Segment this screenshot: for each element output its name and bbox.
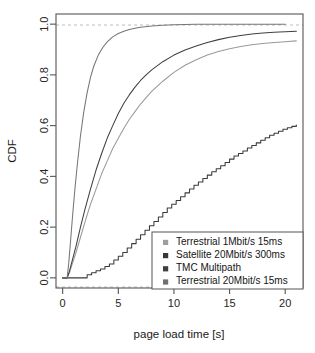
x-tick-label: 15 bbox=[223, 297, 235, 309]
x-tick-label: 5 bbox=[115, 297, 121, 309]
plot-canvas: 0.00.20.40.60.81.0 05101520 page load ti… bbox=[0, 0, 315, 353]
y-tick-label: 0.0 bbox=[38, 270, 50, 285]
cdf-chart-figure: 0.00.20.40.60.81.0 05101520 page load ti… bbox=[0, 0, 315, 353]
legend-label-2: TMC Multipath bbox=[176, 262, 241, 273]
y-tick-label: 0.6 bbox=[38, 118, 50, 133]
chart-legend: Terrestrial 1Mbit/s 15msSatellite 20Mbit… bbox=[152, 232, 303, 289]
x-tick-label: 0 bbox=[60, 297, 66, 309]
y-tick-label: 1.0 bbox=[38, 16, 50, 31]
y-tick-label: 0.2 bbox=[38, 219, 50, 234]
x-tick-label: 10 bbox=[168, 297, 180, 309]
legend-swatch-2 bbox=[163, 266, 168, 271]
x-axis-title: page load time [s] bbox=[134, 328, 225, 340]
y-axis-title: CDF bbox=[6, 139, 18, 163]
legend-label-3: Terrestrial 20Mbit/s 15ms bbox=[176, 275, 288, 286]
y-tick-label: 0.8 bbox=[38, 67, 50, 82]
legend-label-1: Satellite 20Mbit/s 300ms bbox=[176, 249, 285, 260]
x-tick-label: 20 bbox=[279, 297, 291, 309]
legend-label-0: Terrestrial 1Mbit/s 15ms bbox=[176, 236, 282, 247]
legend-swatch-0 bbox=[163, 240, 168, 245]
legend-swatch-3 bbox=[163, 279, 168, 284]
y-tick-label: 0.4 bbox=[38, 169, 50, 184]
legend-swatch-1 bbox=[163, 253, 168, 258]
